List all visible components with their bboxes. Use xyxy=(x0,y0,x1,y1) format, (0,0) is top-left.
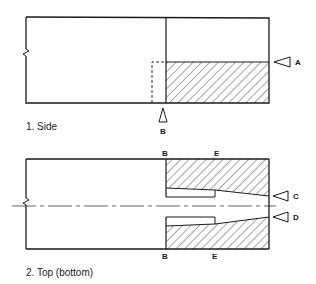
top-view: B E B E C D 2. Top (bottom) xyxy=(12,149,299,278)
break-symbol-icon xyxy=(23,198,29,205)
label-e-bottom: E xyxy=(212,252,218,261)
label-e-top: E xyxy=(214,149,220,158)
marker-d: D xyxy=(273,212,299,222)
marker-c: C xyxy=(273,191,299,201)
marker-a: A xyxy=(274,57,301,67)
marker-b-side: B xyxy=(159,108,167,136)
side-view: A B 1. Side xyxy=(23,17,301,136)
upper-slot xyxy=(166,190,215,197)
marker-label-a: A xyxy=(295,58,301,67)
arrow-left-icon xyxy=(274,57,290,67)
side-view-caption: 1. Side xyxy=(26,121,58,132)
technical-drawing: A B 1. Side B E xyxy=(0,0,316,284)
marker-label-d: D xyxy=(293,213,299,222)
arrow-left-icon xyxy=(273,212,288,222)
marker-label-b: B xyxy=(160,127,166,136)
top-view-caption: 2. Top (bottom) xyxy=(26,267,93,278)
label-b-bottom: B xyxy=(162,252,168,261)
side-hidden-line xyxy=(152,62,166,103)
side-hatched-section xyxy=(166,62,269,103)
top-lower-hatched-section xyxy=(166,217,269,249)
arrow-up-icon xyxy=(159,108,167,122)
lower-slot xyxy=(166,217,215,224)
arrow-left-icon xyxy=(273,191,288,201)
break-symbol-icon xyxy=(23,49,29,56)
marker-label-c: C xyxy=(293,192,299,201)
label-b-top: B xyxy=(162,149,168,158)
